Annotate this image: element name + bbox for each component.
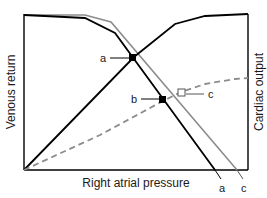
- leader-line-curve-a: [215, 170, 221, 179]
- venous-return-cardiac-output-diagram: a b c a c Right atrial pressure Venous r…: [0, 0, 267, 198]
- y-axis-title-right: Cardiac output: [252, 52, 266, 131]
- point-label-b: b: [131, 93, 137, 105]
- equilibrium-point-a: [129, 54, 136, 61]
- curve-label-c: c: [241, 182, 247, 194]
- y-axis-title-left: Venous return: [4, 55, 18, 130]
- point-label-a: a: [100, 52, 107, 64]
- point-label-c: c: [208, 88, 214, 100]
- equilibrium-point-b: [159, 96, 166, 103]
- leader-line-curve-c: [237, 170, 243, 179]
- venous-return-curve-a: [24, 15, 215, 170]
- cardiac-output-curve-normal: [24, 14, 248, 170]
- equilibrium-point-c: [178, 89, 185, 96]
- curve-label-a: a: [219, 182, 226, 194]
- cardiac-output-curve-depressed: [24, 78, 248, 170]
- x-axis-title: Right atrial pressure: [82, 176, 190, 190]
